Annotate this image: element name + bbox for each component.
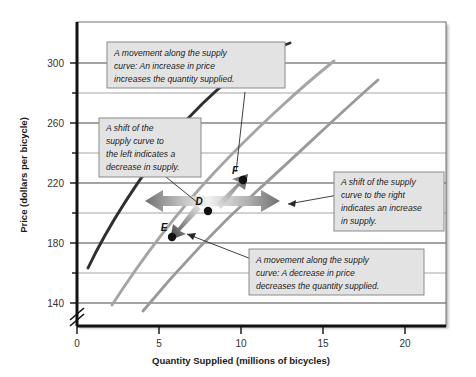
x-tick-label-15: 15 bbox=[317, 338, 329, 349]
shift-left-callout-line-2: supply curve to bbox=[106, 136, 164, 146]
data-point-label-F: F bbox=[232, 165, 239, 176]
shift-right-callout-line-2: curve to the right bbox=[341, 190, 406, 200]
x-tick-label-20: 20 bbox=[399, 338, 411, 349]
shift-left-callout-line-3: the left indicates a bbox=[106, 149, 175, 159]
y-tick-label-180: 180 bbox=[47, 238, 64, 249]
movement-decrease-callout-line-2: curve: A decrease in price bbox=[256, 268, 355, 278]
shift-right-callout-line-3: indicates an increase bbox=[341, 203, 422, 213]
movement-decrease-callout-line-1: A movement along the supply bbox=[255, 255, 370, 265]
x-axis-title: Quantity Supplied (millions of bicycles) bbox=[152, 355, 330, 366]
movement-decrease-callout[interactable]: A movement along the supply curve: A dec… bbox=[249, 249, 424, 295]
shift-left-callout-line-1: A shift of the bbox=[105, 123, 154, 133]
data-point-label-E: E bbox=[161, 222, 168, 233]
data-point-E[interactable] bbox=[168, 233, 176, 241]
shift-right-callout-line-4: in supply. bbox=[341, 216, 377, 226]
movement-increase-callout-line-2: curve: An increase in price bbox=[114, 61, 215, 71]
x-tick-label-10: 10 bbox=[235, 338, 247, 349]
movement-increase-callout-line-1: A movement along the supply bbox=[113, 48, 228, 58]
y-tick-label-300: 300 bbox=[47, 58, 64, 69]
shift-left-callout[interactable]: A shift of the supply curve to the left … bbox=[99, 118, 201, 177]
movement-increase-callout-line-3: increases the quantity supplied. bbox=[114, 74, 234, 84]
y-tick-label-220: 220 bbox=[47, 178, 64, 189]
chart-svg: 300 260 220 180 140 0 5 10 15 20 Quantit… bbox=[0, 0, 476, 377]
movement-increase-callout[interactable]: A movement along the supply curve: An in… bbox=[107, 42, 285, 88]
x-tick-label-0: 0 bbox=[74, 338, 80, 349]
shift-right-callout[interactable]: A shift of the supply curve to the right… bbox=[334, 172, 444, 231]
y-tick-label-140: 140 bbox=[47, 298, 64, 309]
shift-right-callout-line-1: A shift of the supply bbox=[340, 177, 416, 187]
data-point-F[interactable] bbox=[239, 176, 247, 184]
y-tick-label-260: 260 bbox=[47, 118, 64, 129]
y-axis-title: Price (dollars per bicycle) bbox=[18, 117, 29, 233]
supply-curve-figure: 300 260 220 180 140 0 5 10 15 20 Quantit… bbox=[0, 0, 476, 377]
data-point-D[interactable] bbox=[204, 207, 212, 215]
shift-left-callout-line-4: decrease in supply. bbox=[106, 162, 179, 172]
movement-decrease-callout-line-3: decreases the quantity supplied. bbox=[256, 281, 379, 291]
x-tick-label-5: 5 bbox=[156, 338, 162, 349]
